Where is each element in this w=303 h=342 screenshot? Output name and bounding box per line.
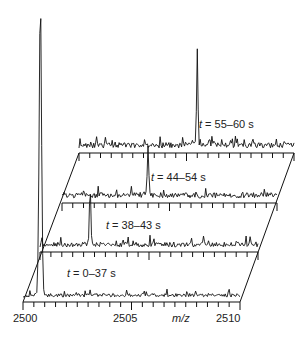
label-trace-2: t = 44–54 s	[151, 171, 206, 183]
left-depth-line	[23, 153, 79, 302]
label-trace-1: t = 55–60 s	[199, 118, 254, 130]
label-trace-3: t = 38–43 s	[106, 219, 161, 231]
spectrum-trace	[23, 19, 240, 297]
x-axis-label: m/z	[172, 312, 190, 324]
label-range: = 55–60 s	[202, 118, 254, 130]
x-tick-2505: 2505	[113, 312, 137, 324]
spectrum-trace	[79, 49, 294, 148]
label-range: = 38–43 s	[109, 219, 161, 231]
label-range: = 0–37 s	[70, 267, 116, 279]
label-range: = 44–54 s	[154, 171, 206, 183]
right-depth-line	[240, 153, 294, 302]
x-tick-2510: 2510	[216, 312, 240, 324]
x-tick-2500: 2500	[13, 312, 37, 324]
label-trace-4: t = 0–37 s	[67, 267, 116, 279]
